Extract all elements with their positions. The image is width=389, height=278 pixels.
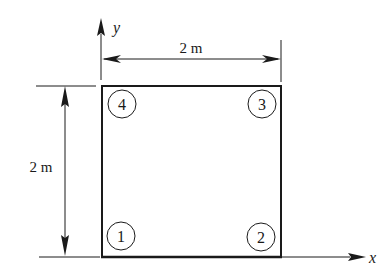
y-axis-arrow-icon [97,18,105,36]
node-4: 4 [108,90,136,118]
height-arrow-bottom-icon [61,235,69,256]
node-2: 2 [247,223,275,251]
node-1: 1 [107,222,135,250]
width-dimension-label: 2 m [180,40,203,56]
node-3-label: 3 [258,96,266,113]
square-element [101,86,282,257]
node-2-label: 2 [257,229,265,246]
height-dimension: 2 m [24,86,100,257]
square-element-diagram: y x 2 m 2 m 4 3 1 2 [0,0,389,278]
node-3: 3 [248,90,276,118]
y-axis-label: y [111,19,121,37]
width-dimension: 2 m [102,40,281,82]
node-4-label: 4 [118,96,126,113]
height-arrow-top-icon [61,86,69,107]
x-axis-label: x [368,249,376,266]
x-axis: x [282,249,376,266]
x-axis-arrow-icon [348,253,366,261]
height-dimension-label: 2 m [30,159,53,175]
node-1-label: 1 [117,228,125,245]
y-axis: y [97,18,121,80]
